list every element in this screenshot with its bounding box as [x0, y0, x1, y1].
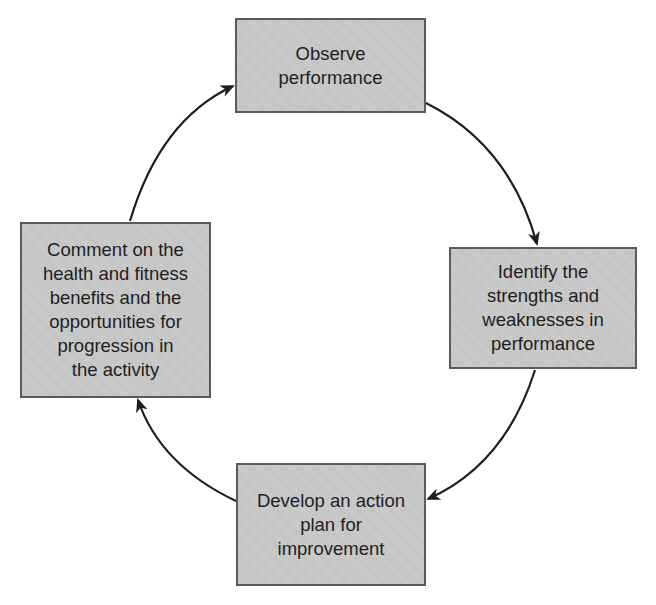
arrow-comment-to-observe — [130, 86, 233, 221]
step-identify-strengths-weaknesses: Identify the strengths and weaknesses in… — [449, 247, 637, 369]
step-label: Observe performance — [279, 42, 383, 90]
step-label: Comment on the health and fitness benefi… — [43, 238, 188, 382]
arrow-identify-to-develop — [428, 370, 535, 499]
step-observe-performance: Observe performance — [235, 18, 426, 113]
arrow-observe-to-identify — [426, 103, 537, 244]
cycle-diagram: Observe performance Identify the strengt… — [0, 0, 656, 605]
step-develop-action-plan: Develop an action plan for improvement — [236, 463, 426, 586]
step-label: Identify the strengths and weaknesses in… — [482, 260, 603, 356]
step-comment-health-fitness: Comment on the health and fitness benefi… — [20, 222, 211, 398]
arrow-develop-to-comment — [138, 400, 236, 501]
step-label: Develop an action plan for improvement — [257, 489, 405, 561]
